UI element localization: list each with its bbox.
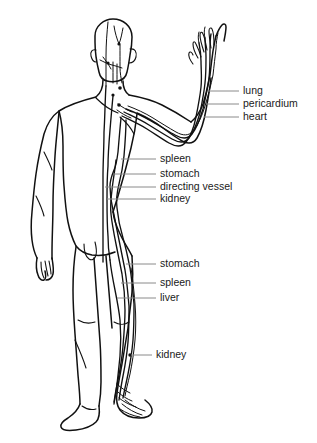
label-kidney-leg: kidney [156,348,187,360]
meridian-hand-terminal-2 [204,27,205,38]
labels-group: lung pericardium heart spleen stomach di… [156,84,298,360]
label-spleen-lower: spleen [160,276,191,288]
chest-detail [96,98,118,113]
meridian-point-head [117,42,120,45]
label-heart: heart [243,110,267,122]
label-lung: lung [243,84,263,96]
left-leg-inner [94,258,101,406]
left-knee-detail [78,320,95,323]
right-foot [117,393,153,418]
meridian-point-neck [118,86,122,90]
label-stomach-lower: stomach [160,257,200,269]
left-ankle-detail [82,406,96,409]
label-spleen-upper: spleen [160,152,191,164]
label-stomach-upper: stomach [160,167,200,179]
left-leg-outer [73,247,80,404]
groin-detail [84,242,96,260]
left-hand-inner [46,258,53,280]
meridian-hand-terminal-1 [198,32,199,43]
meridian-face-right [120,45,122,83]
right-thumb [189,52,193,64]
label-directing-vessel: directing vessel [160,180,232,192]
figure-canvas: lung pericardium heart spleen stomach di… [0,0,317,443]
meridian-head-branch-v [114,26,123,44]
neck-outline-right [123,81,129,95]
meridian-foot-1 [125,400,145,411]
right-shoulder-outer [129,95,191,122]
meridian-point-face [106,61,109,64]
meridian-face-detail-1 [100,60,122,68]
meridian-kidney-torso [107,96,113,260]
meridian-directing-vessel [103,86,106,262]
label-pericardium: pericardium [243,97,298,109]
torso-left-edge [59,111,76,246]
chest-detail-2 [120,117,134,134]
left-arm-crease [44,152,52,170]
left-arm-inner [52,112,59,259]
meridian-ankle-cross-1 [117,384,130,393]
neck-outline [96,80,103,97]
left-forearm-detail [36,196,44,216]
label-liver: liver [160,291,180,303]
left-foot [61,404,100,430]
right-knee-detail [114,322,129,324]
label-kidney-upper: kidney [160,192,191,204]
meridian-diagram: lung pericardium heart spleen stomach di… [0,0,317,443]
meridian-point-kidney-start [111,93,114,96]
meridian-head-vertical [106,22,108,86]
meridian-point-axilla [117,103,121,107]
